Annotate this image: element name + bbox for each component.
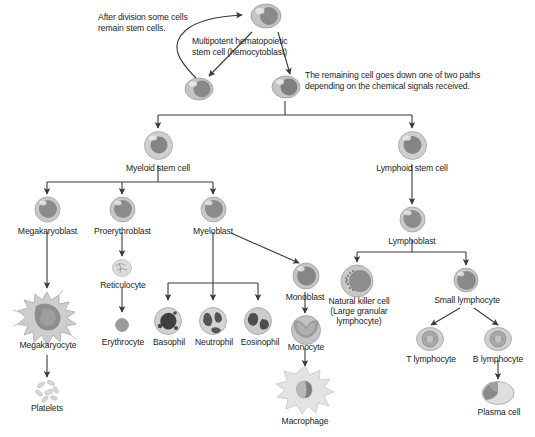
cell-eosinophil [243,306,273,336]
cell-daughter-stem-right [270,74,302,100]
label-reticulocyte: Reticulocyte [88,280,158,290]
cell-megakaryoblast [34,196,61,223]
arrow-myeloblast-to-monoblast [231,233,299,263]
cell-reticulocyte [111,258,133,278]
cell-basophil [153,306,183,336]
note-hemocytoblast: Multipotent hematopoietic stem cell (hem… [192,36,312,58]
label-t-lymphocyte: T lymphocyte [398,354,464,364]
label-small-lymphocyte: Small lymphocyte [423,295,511,305]
arrow-to-b-lymphocyte [474,308,498,325]
label-macrophage: Macrophage [272,416,338,426]
arrow-to-t-lymphocyte [431,308,460,325]
label-platelets: Platelets [17,403,77,413]
label-b-lymphocyte: B lymphocyte [465,354,531,364]
cell-b-lymphocyte [483,326,513,352]
label-lymphoid-stem-cell: Lymphoid stem cell [362,163,462,173]
cell-platelets [32,378,64,404]
label-monocyte: Monocyte [278,342,334,352]
cell-myeloblast [200,196,227,223]
label-natural-killer-cell: Natural killer cell (Large granular lymp… [314,296,404,326]
cell-neutrophil [198,306,228,336]
label-myeloblast: Myeloblast [178,226,248,236]
cell-proerythroblast [109,196,136,223]
cell-t-lymphocyte [415,326,445,352]
label-proerythroblast: Proerythroblast [80,226,165,236]
cell-myeloid-stem [143,130,174,161]
hematopoiesis-diagram: After division some cells remain stem ce… [0,0,535,437]
cell-natural-killer [340,264,374,298]
cell-lymphoid-stem [397,130,428,161]
label-megakaryoblast: Megakaryoblast [5,226,90,236]
label-myeloid-stem-cell: Myeloid stem cell [108,163,208,173]
note-stem-renewal: After division some cells remain stem ce… [98,12,208,34]
label-megakaryocyte: Megakaryocyte [9,340,87,350]
cell-small-lymphocyte [453,267,479,293]
cell-hemocytoblast [249,2,283,30]
cell-daughter-stem-left [183,76,215,102]
cell-monoblast [292,262,320,290]
note-two-paths: The remaining cell goes down one of two … [305,70,535,92]
connector-lines [0,0,535,437]
cell-macrophage [272,364,338,416]
cell-erythrocyte [113,316,131,334]
cell-lymphoblast [399,206,426,233]
cell-plasma [481,380,515,406]
label-plasma-cell: Plasma cell [468,407,530,417]
label-lymphoblast: Lymphoblast [377,236,447,246]
